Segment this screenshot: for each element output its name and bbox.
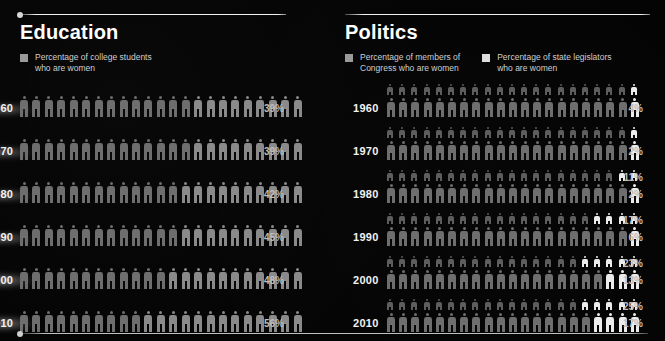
person-icon (45, 182, 53, 203)
section-politics: Politics Percentage of members of Congre… (345, 0, 665, 341)
person-icon (582, 299, 588, 310)
person-icon (107, 225, 115, 246)
person-icon (594, 256, 600, 267)
person-icon (424, 313, 432, 332)
row-percentage-label: 23% (613, 258, 643, 269)
person-icon (20, 96, 28, 117)
legend-item: Percentage of members of Congress who ar… (345, 52, 460, 74)
person-icon (497, 270, 505, 289)
person-icon (545, 127, 551, 138)
person-icon (558, 213, 564, 224)
person-icon (57, 268, 65, 289)
person-icon (594, 170, 600, 181)
person-icon (194, 96, 202, 117)
data-row: 19702% (345, 131, 665, 175)
person-icon (582, 313, 590, 332)
person-icon (70, 311, 78, 332)
person-icon (558, 313, 566, 332)
row-year-label: 970 (0, 145, 13, 157)
person-icon (436, 141, 444, 160)
person-icon (399, 98, 407, 117)
person-icon (387, 299, 393, 310)
person-icon (460, 227, 468, 246)
person-icon (32, 225, 40, 246)
person-icon (460, 213, 466, 224)
person-icon (399, 256, 405, 267)
person-icon (144, 268, 152, 289)
person-icon (509, 213, 515, 224)
person-icon (57, 96, 65, 117)
person-icon (521, 127, 527, 138)
person-icon (509, 313, 517, 332)
person-icon (582, 213, 588, 224)
person-icon (169, 182, 177, 203)
person-icon (497, 227, 505, 246)
person-icon (182, 268, 190, 289)
person-icon (509, 299, 515, 310)
data-row: 00048% (0, 268, 342, 312)
person-icon (411, 227, 419, 246)
person-icon (570, 299, 576, 310)
person-icon (558, 184, 566, 203)
person-icon (582, 141, 590, 160)
person-icon (545, 84, 551, 95)
person-icon (606, 170, 612, 181)
person-icon (570, 84, 576, 95)
data-row: 01056% (0, 311, 342, 341)
person-icon (207, 182, 215, 203)
person-icon (169, 225, 177, 246)
person-icon (521, 299, 527, 310)
person-icon (545, 98, 553, 117)
person-icon (144, 96, 152, 117)
person-icon (387, 213, 393, 224)
person-icon (169, 268, 177, 289)
person-icon (399, 227, 407, 246)
section-rule-education (20, 14, 286, 15)
person-icon (460, 299, 466, 310)
person-icon (606, 299, 612, 310)
person-icon (387, 256, 393, 267)
person-icon (472, 256, 478, 267)
person-icon (132, 225, 140, 246)
person-icon (424, 184, 432, 203)
pictogram-row-congress (387, 141, 643, 160)
person-icon (570, 98, 578, 117)
person-icon (231, 311, 239, 332)
person-icon (606, 127, 612, 138)
person-icon (582, 98, 590, 117)
data-row: 199017%6% (345, 217, 665, 261)
person-icon (448, 127, 454, 138)
person-icon (594, 84, 600, 95)
person-icon (533, 184, 541, 203)
person-icon (387, 127, 393, 138)
person-icon (582, 84, 588, 95)
person-icon (619, 84, 625, 95)
person-icon (387, 84, 393, 95)
person-icon (594, 299, 600, 310)
person-icon (448, 84, 454, 95)
person-icon (194, 268, 202, 289)
person-icon (144, 225, 152, 246)
person-icon (436, 98, 444, 117)
person-icon (472, 84, 478, 95)
legend-label: Percentage of college students who are w… (35, 52, 152, 74)
person-icon (497, 127, 503, 138)
person-icon (497, 213, 503, 224)
legend-politics: Percentage of members of Congress who ar… (345, 52, 634, 74)
person-icon (120, 225, 128, 246)
row-year-label: 1990 (353, 231, 379, 243)
person-icon (57, 182, 65, 203)
person-icon (219, 268, 227, 289)
person-icon (436, 84, 442, 95)
person-icon (387, 141, 395, 160)
person-icon (219, 225, 227, 246)
person-icon (32, 182, 40, 203)
row-percentage-label: 48% (250, 275, 284, 286)
bottom-rule (20, 333, 648, 334)
row-percentage-label: 2% (613, 189, 643, 200)
person-icon (45, 311, 53, 332)
legend-education: Percentage of college students who are w… (20, 52, 174, 74)
person-icon (558, 299, 564, 310)
person-icon (509, 184, 517, 203)
person-icon (533, 98, 541, 117)
